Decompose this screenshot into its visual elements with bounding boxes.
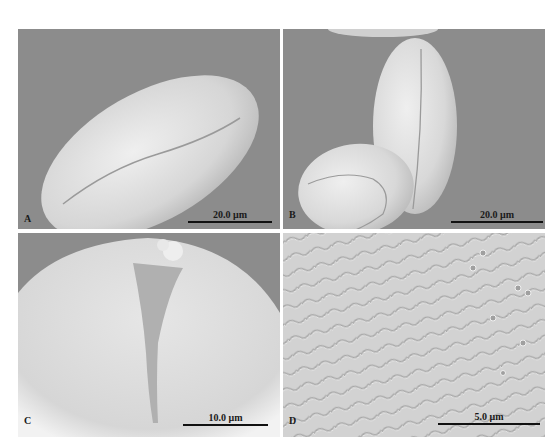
- scale-bar: 20.0 μm: [188, 209, 272, 223]
- scale-bar-line: [188, 221, 272, 223]
- scale-bar-line: [451, 221, 543, 223]
- scale-bar-label: 20.0 μm: [188, 209, 272, 220]
- exine-surface-image-d: [283, 233, 545, 437]
- pollen-grain-image-b: [283, 29, 545, 229]
- scale-bar-line: [438, 423, 540, 425]
- panel-d: D 5.0 μm: [283, 233, 545, 437]
- panel-c: C 10.0 μm: [18, 233, 280, 437]
- panel-a: A 20.0 μm: [18, 29, 280, 229]
- scale-bar: 5.0 μm: [438, 411, 540, 425]
- panel-b: B 20.0 μm: [283, 29, 545, 229]
- scale-bar: 10.0 μm: [183, 412, 268, 426]
- scale-bar-label: 5.0 μm: [438, 411, 540, 422]
- panel-label: D: [289, 415, 296, 426]
- panel-label: A: [24, 213, 31, 224]
- scale-bar: 20.0 μm: [451, 209, 543, 223]
- scale-bar-label: 20.0 μm: [451, 209, 543, 220]
- panel-label: C: [24, 415, 31, 426]
- scale-bar-label: 10.0 μm: [183, 412, 268, 423]
- scale-bar-line: [183, 424, 268, 426]
- pollen-grain-image-c: [18, 233, 280, 437]
- panel-label: B: [289, 209, 296, 220]
- pollen-grain-image-a: [18, 29, 280, 229]
